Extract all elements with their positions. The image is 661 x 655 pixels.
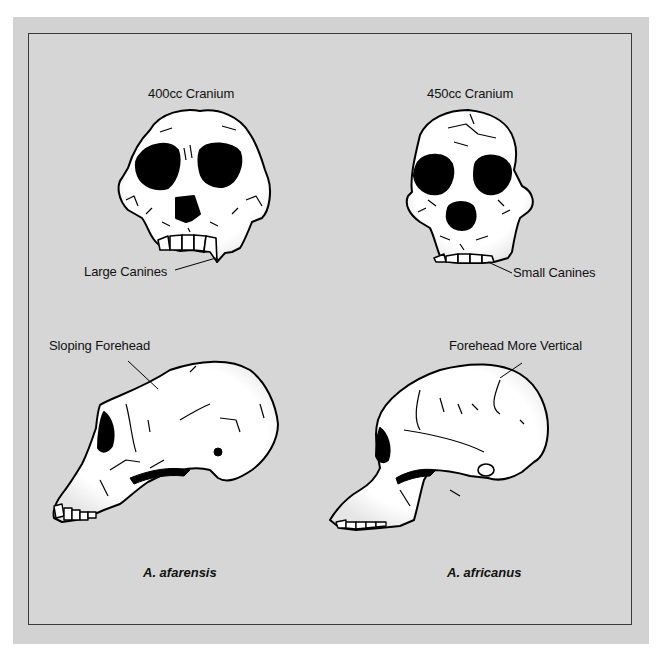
large-canines-leader-line [175, 258, 216, 270]
africanus-cranium-capacity-label: 450cc Cranium [427, 86, 513, 101]
forehead-more-vertical-label: Forehead More Vertical [449, 338, 582, 353]
skull-illustrations [0, 0, 661, 655]
africanus-species-label: A. africanus [447, 565, 521, 580]
africanus-front-skull [407, 110, 533, 263]
small-canines-leader-line [488, 262, 512, 273]
large-canines-label: Large Canines [84, 264, 167, 279]
sloping-forehead-label: Sloping Forehead [49, 338, 150, 353]
afarensis-front-skull [119, 110, 270, 262]
afarensis-species-label: A. afarensis [143, 565, 217, 580]
afarensis-cranium-capacity-label: 400cc Cranium [148, 86, 234, 101]
small-canines-label: Small Canines [513, 265, 596, 280]
afarensis-side-skull [53, 362, 278, 522]
africanus-side-skull [330, 364, 548, 530]
